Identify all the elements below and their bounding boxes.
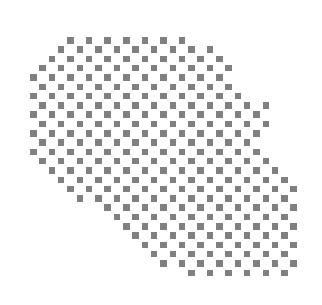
map-dot <box>142 130 149 137</box>
map-dot <box>142 93 149 100</box>
map-dot <box>272 186 279 193</box>
map-dot <box>39 65 46 72</box>
map-dot <box>104 37 111 44</box>
map-dot <box>179 167 186 174</box>
map-dot <box>197 111 204 118</box>
map-dot <box>123 37 130 44</box>
map-dot <box>123 93 130 100</box>
map-dot <box>67 56 74 63</box>
map-dot <box>225 214 232 221</box>
map-dot <box>235 204 242 211</box>
map-dot <box>104 186 111 193</box>
map-dot <box>95 65 102 72</box>
map-dot <box>104 111 111 118</box>
map-dot <box>151 121 158 128</box>
map-dot <box>207 158 214 165</box>
map-dot <box>179 204 186 211</box>
map-dot <box>160 186 167 193</box>
map-dot <box>244 195 251 202</box>
map-dot <box>104 130 111 137</box>
map-dot <box>123 167 130 174</box>
map-dot <box>58 121 65 128</box>
map-dot <box>170 102 177 109</box>
map-dot <box>132 158 139 165</box>
map-dot <box>281 177 288 184</box>
map-dot <box>104 74 111 81</box>
map-dot <box>142 204 149 211</box>
map-dot <box>95 195 102 202</box>
map-dot <box>263 214 270 221</box>
map-dot <box>272 223 279 230</box>
map-dot <box>179 242 186 249</box>
map-dot <box>216 260 223 267</box>
map-dot <box>114 195 121 202</box>
map-dot <box>160 242 167 249</box>
map-dot <box>132 214 139 221</box>
map-dot <box>235 242 242 249</box>
map-dot <box>86 93 93 100</box>
map-dot <box>197 93 204 100</box>
map-dot <box>114 65 121 72</box>
map-dot <box>216 223 223 230</box>
map-dot <box>263 232 270 239</box>
map-dot <box>188 195 195 202</box>
map-dot <box>86 56 93 63</box>
map-dot <box>235 111 242 118</box>
map-dot <box>86 111 93 118</box>
map-dot <box>170 195 177 202</box>
map-dot <box>235 186 242 193</box>
map-dot <box>244 121 251 128</box>
map-dot <box>170 251 177 258</box>
map-dot <box>188 270 195 277</box>
map-dot <box>49 167 56 174</box>
map-dot <box>95 139 102 146</box>
map-dot <box>151 102 158 109</box>
map-dot <box>114 84 121 91</box>
map-dot <box>188 65 195 72</box>
map-dot <box>263 251 270 258</box>
map-dot <box>123 149 130 156</box>
map-dot <box>67 130 74 137</box>
map-dot <box>225 195 232 202</box>
map-dot <box>235 223 242 230</box>
map-dot <box>58 139 65 146</box>
map-dot <box>142 242 149 249</box>
map-dot <box>253 223 260 230</box>
map-dot <box>290 204 297 211</box>
map-dot <box>123 74 130 81</box>
map-dot <box>160 56 167 63</box>
map-dot <box>132 121 139 128</box>
map-dot <box>39 102 46 109</box>
map-dot <box>170 46 177 53</box>
map-dot <box>207 195 214 202</box>
map-dot <box>86 149 93 156</box>
map-dot <box>253 149 260 156</box>
map-dot <box>95 46 102 53</box>
map-dot <box>151 232 158 239</box>
map-dot <box>216 93 223 100</box>
map-dot <box>179 37 186 44</box>
map-dot <box>160 223 167 230</box>
map-dot <box>142 37 149 44</box>
map-dot <box>179 186 186 193</box>
map-dot <box>132 195 139 202</box>
map-dot <box>197 167 204 174</box>
map-dot <box>207 102 214 109</box>
map-dot <box>197 186 204 193</box>
map-dot <box>225 270 232 277</box>
map-dot <box>114 139 121 146</box>
map-dot <box>253 167 260 174</box>
map-dot <box>179 260 186 267</box>
map-dot <box>142 111 149 118</box>
map-dot <box>151 139 158 146</box>
map-dot <box>123 130 130 137</box>
map-dot <box>225 251 232 258</box>
map-dot <box>49 130 56 137</box>
map-dot <box>30 149 37 156</box>
map-dot <box>160 74 167 81</box>
map-dot-grid <box>0 0 322 305</box>
map-dot <box>58 46 65 53</box>
map-dot <box>160 130 167 137</box>
map-dot <box>225 84 232 91</box>
map-dot <box>67 74 74 81</box>
